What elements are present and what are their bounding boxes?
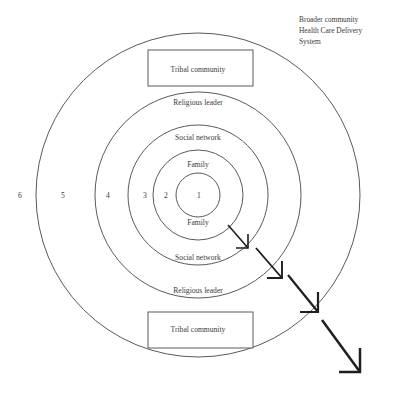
ring-number-4: 4 bbox=[106, 191, 110, 200]
corner-note-line-2: Health Care Delivery bbox=[299, 26, 363, 35]
ring-label-religious-leader-top: Religious leader bbox=[173, 98, 223, 107]
ring-label-social-network-bottom: Social network bbox=[175, 253, 221, 262]
corner-note-line-1: Broader community bbox=[299, 15, 359, 24]
ring-number-6: 6 bbox=[18, 191, 22, 200]
flow-arrow-4 bbox=[322, 320, 360, 372]
diagram-canvas: Tribal community Religious leader Social… bbox=[0, 0, 393, 394]
flow-arrow-2 bbox=[256, 248, 282, 278]
flow-arrow-3 bbox=[288, 275, 318, 312]
ring-number-5: 5 bbox=[61, 191, 65, 200]
corner-note-line-3: System bbox=[299, 37, 321, 46]
ring-label-social-network-top: Social network bbox=[175, 133, 221, 142]
ring-number-3: 3 bbox=[143, 191, 147, 200]
ring-number-1: 1 bbox=[197, 191, 201, 200]
ring-label-religious-leader-bottom: Religious leader bbox=[173, 286, 223, 295]
ring-label-tribal-community-top: Tribal community bbox=[171, 65, 226, 74]
flow-arrow-1 bbox=[228, 225, 248, 248]
ring-label-tribal-community-bottom: Tribal community bbox=[171, 325, 226, 334]
concentric-circles-diagram: Tribal community Religious leader Social… bbox=[0, 0, 393, 394]
ring-label-family-top: Family bbox=[187, 160, 209, 169]
ring-number-2: 2 bbox=[164, 191, 168, 200]
ring-label-family-bottom: Family bbox=[187, 218, 209, 227]
